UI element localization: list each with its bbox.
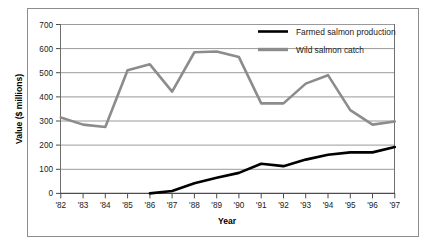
x-tick-label: '93 (300, 201, 311, 210)
x-tick-label: '82 (55, 201, 66, 210)
x-axis-tick-labels: '82 '83 '84 '85 '86 '87 '88 '89 '90 '91 … (55, 201, 400, 210)
x-tick-marks (61, 193, 395, 198)
x-tick-label: '97 (389, 201, 400, 210)
x-tick-label: '89 (211, 201, 222, 210)
x-tick-label: '84 (100, 201, 111, 210)
chart-legend: Farmed salmon production Wild salmon cat… (258, 27, 396, 55)
y-tick-label: 700 (39, 21, 53, 30)
x-tick-label: '87 (167, 201, 178, 210)
x-tick-label: '95 (345, 201, 356, 210)
x-tick-label: '86 (145, 201, 156, 210)
x-tick-label: '94 (323, 201, 334, 210)
y-tick-label: 200 (39, 141, 53, 150)
series-line-wild-salmon-catch (61, 52, 395, 128)
y-tick-label: 400 (39, 93, 53, 102)
y-tick-label: 300 (39, 117, 53, 126)
x-tick-label: '83 (78, 201, 89, 210)
y-tick-label: 100 (39, 165, 53, 174)
y-axis-tick-labels: 700 600 500 400 300 200 100 0 (39, 21, 53, 199)
x-tick-label: '85 (122, 201, 133, 210)
x-tick-label: '88 (189, 201, 200, 210)
legend-label-wild: Wild salmon catch (296, 45, 364, 55)
y-tick-label: 0 (48, 189, 53, 198)
x-tick-label: '96 (367, 201, 378, 210)
series-line-farmed-salmon-production (150, 147, 395, 193)
salmon-line-chart: 700 600 500 400 300 200 100 0 (0, 0, 431, 248)
x-tick-label: '90 (234, 201, 245, 210)
chart-figure: 700 600 500 400 300 200 100 0 (0, 0, 431, 248)
y-tick-marks (56, 25, 60, 194)
x-axis-title: Year (218, 216, 237, 226)
x-tick-label: '91 (256, 201, 267, 210)
legend-label-farmed: Farmed salmon production (296, 27, 396, 37)
x-tick-label: '92 (278, 201, 289, 210)
y-tick-label: 600 (39, 45, 53, 54)
y-tick-label: 500 (39, 69, 53, 78)
y-axis-title: Value ($ millions) (14, 74, 24, 144)
